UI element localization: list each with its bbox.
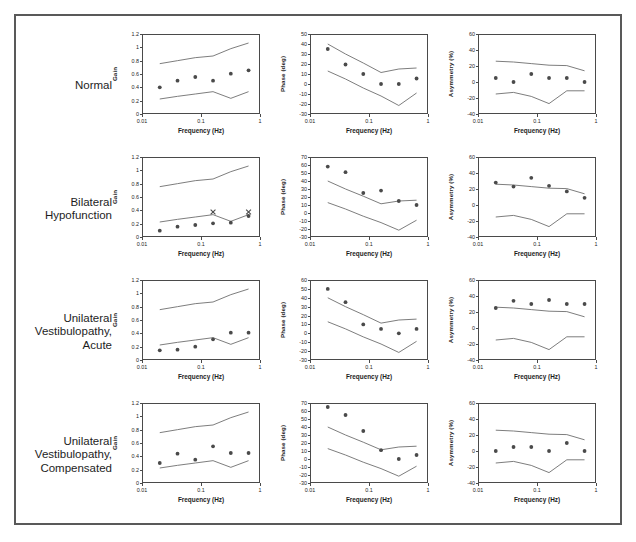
data-point-marker [211,337,215,341]
data-point-marker [565,302,569,306]
data-point-marker [494,306,498,310]
plot-panel-acute-gain: Gain00.20.40.60.811.20.010.11Frequency (… [112,270,280,394]
normative-bound-curve [496,337,585,350]
data-point-marker [512,299,516,303]
normative-bound-curve [160,338,249,345]
data-point-marker [247,214,251,218]
data-point-marker [415,203,419,207]
normative-bound-curve [496,214,585,227]
data-point-marker [229,331,233,335]
data-point-marker [583,449,587,453]
normative-bound-curve [328,449,417,477]
data-point-marker [361,429,365,433]
data-point-marker [397,457,401,461]
row-label-unilateral-acute: UnilateralVestibulopathy,Acute [20,270,112,394]
plot-graphics-normal-phase [280,24,448,147]
plot-row-bilateral-hypofunction: BilateralHypofunctionGain00.20.40.60.811… [16,147,620,271]
data-point-marker [379,448,383,452]
plot-panel-acute-asymmetry: Asymmetry (%)-40-2002040600.010.11Freque… [448,270,616,394]
data-point-marker [193,458,197,462]
row-label-line: Compensated [40,462,112,476]
data-point-marker [547,76,551,80]
data-point-marker [193,75,197,79]
data-point-marker [583,302,587,306]
data-point-marker [397,199,401,203]
data-point-marker [158,85,162,89]
data-point-marker [211,221,215,225]
plot-graphics-compensated-gain [112,393,280,516]
normative-bound-curve [160,412,249,433]
data-point-marker [415,327,419,331]
row-label-bilateral-hypofunction: BilateralHypofunction [20,147,112,271]
data-point-marker [211,444,215,448]
plot-row-normal: NormalGain00.20.40.60.811.20.010.11Frequ… [16,24,620,148]
normative-bound-curve [160,92,249,99]
data-point-marker [494,76,498,80]
data-point-marker [158,461,162,465]
row-label-line: Bilateral [70,196,112,210]
plot-graphics-bilateral-asymmetry [448,147,616,270]
plot-graphics-bilateral-phase [280,147,448,270]
row-label-line: Vestibulopathy, [35,325,112,339]
normative-bound-curve [160,215,249,222]
normative-bound-curve [328,181,417,204]
data-point-marker [326,287,330,291]
plot-graphics-acute-asymmetry [448,270,616,393]
data-point-marker [397,331,401,335]
normative-bound-curve [328,427,417,450]
normative-bound-curve [328,71,417,106]
data-point-marker [379,82,383,86]
data-point-marker [326,47,330,51]
plot-graphics-bilateral-gain [112,147,280,270]
data-point-marker [529,72,533,76]
normative-bound-curve [328,203,417,231]
plot-panel-compensated-phase: Phase (deg)-30-20-100102030405060700.010… [280,393,448,517]
data-point-marker [176,79,180,83]
row-label-line: Vestibulopathy, [35,448,112,462]
normative-bound-curve [328,44,417,73]
plot-panel-compensated-asymmetry: Asymmetry (%)-40-2002040600.010.11Freque… [448,393,616,517]
data-point-marker [247,451,251,455]
data-point-marker [176,452,180,456]
normative-bound-curve [496,307,585,317]
data-point-marker [326,165,330,169]
data-point-marker [529,445,533,449]
plot-panel-normal-phase: Phase (deg)-30-20-10010203040500.010.11F… [280,24,448,148]
plot-row-unilateral-compensated: UnilateralVestibulopathy,CompensatedGain… [16,393,620,517]
data-point-marker [193,223,197,227]
row-label-line: Normal [75,79,112,93]
row-label-line: Unilateral [63,435,112,449]
data-point-marker [565,190,569,194]
normative-bound-curve [496,430,585,440]
plot-panel-bilateral-asymmetry: Asymmetry (%)-40-2002040600.010.11Freque… [448,147,616,271]
data-point-marker [494,449,498,453]
data-point-marker [344,300,348,304]
data-point-marker [415,453,419,457]
data-point-marker [494,181,498,185]
plot-panel-compensated-gain: Gain00.20.40.60.811.20.010.11Frequency (… [112,393,280,517]
data-point-marker [229,451,233,455]
normative-bound-curve [160,461,249,468]
plot-row-unilateral-acute: UnilateralVestibulopathy,AcuteGain00.20.… [16,270,620,394]
data-point-marker [565,441,569,445]
data-point-marker [158,348,162,352]
data-point-marker [529,176,533,180]
normative-bound-curve [160,43,249,64]
data-point-marker [344,170,348,174]
data-point-marker [193,345,197,349]
data-point-marker [565,76,569,80]
row-label-line: Unilateral [63,312,112,326]
data-point-marker [344,63,348,67]
data-point-marker [176,225,180,229]
data-point-marker [229,72,233,76]
data-point-marker [379,189,383,193]
data-point-marker [583,196,587,200]
normative-bound-curve [328,298,417,323]
data-point-marker [547,298,551,302]
data-point-marker [158,229,162,233]
data-point-marker [176,348,180,352]
plot-panel-bilateral-gain: Gain00.20.40.60.811.20.010.11Frequency (… [112,147,280,271]
plot-graphics-acute-phase [280,270,448,393]
plot-graphics-compensated-asymmetry [448,393,616,516]
data-point-marker [326,405,330,409]
